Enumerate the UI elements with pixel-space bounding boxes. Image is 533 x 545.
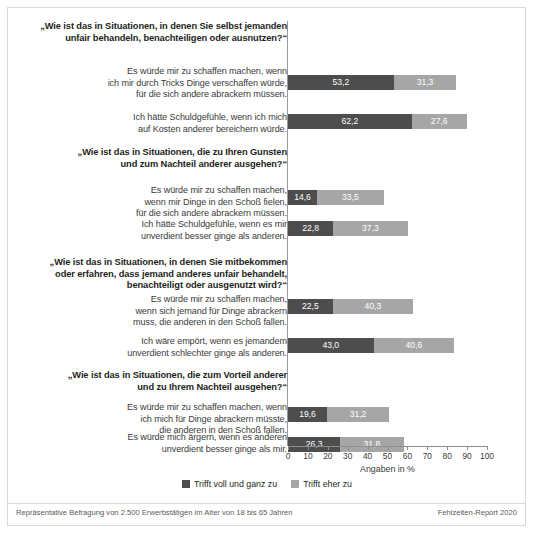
bar-segment-fully-agree: 19,6: [288, 407, 327, 422]
legend-item-1[interactable]: Trifft eher zu: [291, 479, 352, 489]
bar-segment-fully-agree: 22,5: [288, 299, 333, 314]
bar-segment-somewhat-agree: 37,3: [333, 221, 407, 236]
group-title-line: „Wie ist das in Situationen, die zum Vor…: [15, 370, 287, 382]
axis-tick-mark: [288, 446, 289, 450]
item-label-line: Es würde mir zu schaffen machen,: [15, 294, 287, 306]
bar-segment-somewhat-agree: 31,8: [340, 437, 403, 452]
item-label: Es würde mich ärgern, wenn es anderenunv…: [15, 432, 287, 455]
axis-tick-label: 100: [475, 451, 499, 461]
group-title-line: unfair behandeln, benachteiligen oder au…: [15, 33, 287, 45]
group-title-line: und zum Nachteil anderer ausgehen?“: [15, 159, 287, 171]
axis-tick-mark: [427, 446, 428, 450]
legend-swatch-icon: [291, 480, 299, 488]
item-label-line: Ich hätte Schuldgefühle, wenn es mir: [15, 219, 287, 231]
footer: Repräsentative Befragung von 2.500 Erwer…: [16, 508, 517, 517]
legend-swatch-icon: [182, 480, 190, 488]
legend-label: Trifft voll und ganz zu: [194, 479, 277, 489]
item-label-line: ich mich für Dinge abrackern müsste,: [15, 414, 287, 426]
axis-tick-mark: [348, 446, 349, 450]
bar-segment-somewhat-agree: 31,2: [327, 407, 389, 422]
chart-plot-area: „Wie ist das in Situationen, in denen Si…: [7, 7, 526, 496]
group-title: „Wie ist das in Situationen, die zum Vor…: [15, 370, 287, 393]
bar-segment-somewhat-agree: 40,6: [374, 338, 455, 353]
group-title: „Wie ist das in Situationen, in denen Si…: [15, 257, 287, 292]
bar-segment-fully-agree: 62,2: [288, 114, 412, 129]
item-label-line: unverdient besser ginge als anderen.: [15, 231, 287, 243]
bar-segment-fully-agree: 53,2: [288, 75, 394, 90]
stacked-bar: 14,633,5: [288, 190, 384, 205]
item-label-line: unverdient besser ginge als mir.: [15, 444, 287, 456]
bar-segment-somewhat-agree: 27,6: [412, 114, 467, 129]
item-label: Ich hätte Schuldgefühle, wenn es mirunve…: [15, 219, 287, 242]
bar-segment-somewhat-agree: 33,5: [317, 190, 384, 205]
stacked-bar: 43,040,6: [288, 338, 454, 353]
item-label-line: Es würde mir zu schaffen machen, wenn: [15, 402, 287, 414]
stacked-bar: 53,231,3: [288, 75, 456, 90]
item-label: Ich hätte Schuldgefühle, wenn ich michau…: [15, 112, 287, 135]
bar-segment-somewhat-agree: 31,3: [394, 75, 456, 90]
axis-tick-mark: [368, 446, 369, 450]
item-label-line: Ich wäre empört, wenn es jemandem: [15, 336, 287, 348]
item-label-line: Es würde mich ärgern, wenn es anderen: [15, 432, 287, 444]
item-label-line: Es würde mir zu schaffen machen,: [15, 185, 287, 197]
legend-item-0[interactable]: Trifft voll und ganz zu: [182, 479, 277, 489]
axis-tick-mark: [407, 446, 408, 450]
chart-legend: Trifft voll und ganz zu Trifft eher zu: [182, 477, 482, 491]
value-axis-title: Angaben in %: [288, 464, 487, 474]
group-title: „Wie ist das in Situationen, in denen Si…: [15, 21, 287, 44]
stacked-bar: 26,331,8: [288, 437, 404, 452]
item-label-line: muss, die anderen in den Schoß fallen.: [15, 317, 287, 329]
item-label: Es würde mir zu schaffen machen,wenn mir…: [15, 185, 287, 220]
bar-segment-somewhat-agree: 40,3: [333, 299, 413, 314]
footer-divider: [7, 503, 526, 504]
group-title: „Wie ist das in Situationen, die zu Ihre…: [15, 147, 287, 170]
group-title-line: oder erfahren, dass jemand anderes unfai…: [15, 269, 287, 281]
item-label: Es würde mir zu schaffen machen, wennich…: [15, 66, 287, 101]
footer-source-note: Repräsentative Befragung von 2.500 Erwer…: [16, 508, 293, 517]
item-label-line: wenn sich jemand für Dinge abrackern: [15, 306, 287, 318]
item-label: Ich wäre empört, wenn es jemandemunverdi…: [15, 336, 287, 359]
axis-tick-mark: [447, 446, 448, 450]
bar-segment-fully-agree: 26,3: [288, 437, 340, 452]
footer-report-name: Fehlzeiten-Report 2020: [438, 508, 517, 517]
group-title-line: und zu Ihrem Nachteil ausgehen?“: [15, 382, 287, 394]
item-label-line: Ich hätte Schuldgefühle, wenn ich mich: [15, 112, 287, 124]
axis-tick-mark: [308, 446, 309, 450]
item-label-line: auf Kosten anderer bereichern würde.: [15, 124, 287, 136]
chart-figure: „Wie ist das in Situationen, in denen Si…: [0, 0, 533, 545]
bar-segment-fully-agree: 22,8: [288, 221, 333, 236]
item-label-line: wenn mir Dinge in den Schoß fielen,: [15, 197, 287, 209]
item-label-line: unverdient schlechter ginge als anderen.: [15, 348, 287, 360]
axis-tick-mark: [487, 446, 488, 450]
item-label-line: Es würde mir zu schaffen machen, wenn: [15, 66, 287, 78]
axis-tick-mark: [328, 446, 329, 450]
item-label-line: für die sich andere abrackern müssen.: [15, 89, 287, 101]
bar-segment-fully-agree: 43,0: [288, 338, 374, 353]
legend-label: Trifft eher zu: [303, 479, 352, 489]
group-title-line: „Wie ist das in Situationen, in denen Si…: [15, 257, 287, 269]
stacked-bar: 22,837,3: [288, 221, 408, 236]
axis-tick-mark: [467, 446, 468, 450]
item-label: Es würde mir zu schaffen machen,wenn sic…: [15, 294, 287, 329]
group-title-line: benachteiligt oder ausgenutzt wird?“: [15, 280, 287, 292]
stacked-bar: 19,631,2: [288, 407, 389, 422]
group-title-line: „Wie ist das in Situationen, in denen Si…: [15, 21, 287, 33]
bar-segment-fully-agree: 14,6: [288, 190, 317, 205]
stacked-bar: 62,227,6: [288, 114, 467, 129]
axis-tick-mark: [388, 446, 389, 450]
group-title-line: „Wie ist das in Situationen, die zu Ihre…: [15, 147, 287, 159]
stacked-bar: 22,540,3: [288, 299, 413, 314]
item-label-line: ich mir durch Tricks Dinge verschaffen w…: [15, 78, 287, 90]
